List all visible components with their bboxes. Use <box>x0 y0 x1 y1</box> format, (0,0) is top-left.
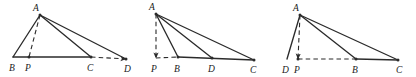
vertex-dot-b <box>355 58 358 61</box>
side-AD <box>287 15 300 59</box>
vertex-label-b: B <box>174 64 180 74</box>
vertex-dot-c <box>253 59 256 62</box>
vertex-label-b: B <box>352 65 358 75</box>
vertex-dot-c <box>397 59 400 62</box>
base-BC <box>178 57 254 60</box>
vertex-label-p: P <box>293 65 300 75</box>
vertex-label-p: P <box>150 64 157 74</box>
vertex-label-d: D <box>281 65 289 75</box>
vertex-label-d: D <box>207 64 215 74</box>
vertex-label-d: D <box>123 64 131 74</box>
vertex-dot-d <box>125 58 128 61</box>
side-AB <box>13 15 40 57</box>
extension-CD <box>91 57 126 59</box>
vertex-label-c: C <box>250 65 257 75</box>
figure-3-canvas: ADPBC <box>280 0 416 77</box>
vertex-dot-p <box>297 58 300 61</box>
extension-PB <box>156 57 178 58</box>
triangle-abc-with-extension-to-d: ABPCD <box>0 0 140 77</box>
figure-1-canvas: ABPCD <box>0 0 140 77</box>
vertex-dot-a <box>299 14 302 17</box>
vertex-dot-p <box>28 56 31 59</box>
figure-2-canvas: APBDC <box>140 0 280 77</box>
vertex-label-a: A <box>32 3 39 13</box>
vertex-label-a: A <box>148 2 155 12</box>
vertex-label-a: A <box>292 3 299 13</box>
vertex-dot-b <box>177 56 180 59</box>
side-AD <box>40 15 126 59</box>
vertex-label-c: C <box>87 63 94 73</box>
vertex-label-p: P <box>24 63 31 73</box>
triangle-abc-with-point-d-left-of-p: ADPBC <box>280 0 416 77</box>
vertex-dot-d <box>211 57 214 60</box>
side-AC <box>40 15 91 57</box>
vertex-label-c: C <box>396 65 403 75</box>
base-BC <box>356 59 398 60</box>
geometry-figure-sheet: ABPCDAPBDCADPBC <box>0 0 416 77</box>
vertex-label-b: B <box>9 63 15 73</box>
vertex-dot-a <box>39 14 42 17</box>
vertex-dot-a <box>155 13 158 16</box>
triangle-abc-with-foot-p-outside: APBDC <box>140 0 280 77</box>
vertex-dot-c <box>90 56 93 59</box>
side-AB <box>156 14 178 57</box>
altitude-AP <box>29 15 40 57</box>
